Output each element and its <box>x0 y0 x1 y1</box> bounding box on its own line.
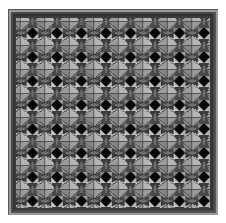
tile-field <box>15 17 211 209</box>
artwork-description: Square decorative panel with a beveled g… <box>0 16 1 17</box>
tile-pattern-panel <box>8 9 218 215</box>
page-title: Framed Geometric Tile Pattern <box>0 21 1 22</box>
tile-pattern-svg <box>8 9 218 215</box>
artboard: Framed Geometric Tile Pattern Square dec… <box>0 0 226 223</box>
